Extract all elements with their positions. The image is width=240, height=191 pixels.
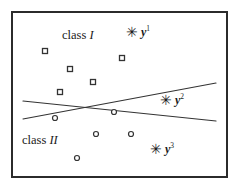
- class-two-point: [75, 156, 80, 161]
- class-two-point: [129, 132, 134, 137]
- class-two-label: class II: [22, 133, 58, 148]
- class-two-markers: [53, 110, 134, 161]
- class-two-point: [94, 132, 99, 137]
- class-one-point: [120, 56, 125, 61]
- prototype-y3-label: ✳y3: [150, 141, 174, 158]
- prototype-y2-label: ✳y2: [160, 92, 184, 109]
- class-one-numeral: I: [89, 28, 93, 42]
- class-two-point: [53, 116, 58, 121]
- boundary-1: [23, 83, 216, 119]
- class-one-point: [91, 80, 96, 85]
- classification-figure: class I class II ✳y1 ✳y2 ✳y3: [0, 0, 240, 191]
- asterisk-icon: ✳: [150, 142, 162, 157]
- prototype-y3-superscript: 3: [170, 141, 174, 150]
- class-two-point: [112, 110, 117, 115]
- asterisk-icon: ✳: [126, 25, 138, 40]
- class-one-point: [58, 90, 63, 95]
- class-one-point: [68, 67, 73, 72]
- decision-boundaries: [23, 83, 216, 121]
- prototype-y1-superscript: 1: [146, 24, 150, 33]
- prototype-y1-label: ✳y1: [126, 24, 150, 41]
- class-two-prefix: class: [22, 133, 49, 147]
- class-two-numeral: II: [49, 133, 57, 147]
- class-one-markers: [43, 49, 125, 95]
- asterisk-icon: ✳: [160, 93, 172, 108]
- class-one-label: class I: [62, 28, 94, 43]
- class-one-prefix: class: [62, 28, 89, 42]
- class-one-point: [43, 49, 48, 54]
- plot-area: [0, 0, 240, 191]
- prototype-y2-superscript: 2: [180, 92, 184, 101]
